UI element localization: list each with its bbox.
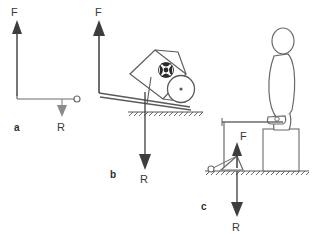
panel-c-reaction-label: R bbox=[232, 221, 240, 233]
panel-a-force-label: F bbox=[11, 6, 18, 18]
panel-c-ground-hatching bbox=[206, 171, 309, 175]
panel-c-effort-arrowhead bbox=[232, 142, 242, 156]
panel-b-ground-hatching bbox=[129, 112, 203, 116]
figure-canvas: F R a bbox=[0, 0, 312, 237]
panel-b-load-blob bbox=[159, 63, 174, 78]
panel-c-force-label: F bbox=[240, 130, 247, 142]
panel-a: F R a bbox=[11, 6, 80, 133]
panel-b-load-arrowhead bbox=[139, 154, 151, 170]
panel-c-person-torso bbox=[269, 54, 295, 118]
panel-a-fulcrum-circle bbox=[74, 96, 80, 102]
panel-c-pivot-circle bbox=[208, 166, 214, 172]
panel-a-effort-arrowhead bbox=[12, 20, 22, 34]
panel-b-wheel-axle bbox=[179, 87, 182, 90]
panel-b-reaction-label: R bbox=[140, 173, 148, 185]
panel-c-person-head bbox=[272, 28, 294, 54]
panel-c-ankle-joint bbox=[275, 117, 279, 121]
panel-c-load-arrowhead bbox=[231, 202, 243, 217]
panel-a-reaction-label: R bbox=[57, 121, 65, 133]
panel-c-load-box bbox=[263, 129, 299, 171]
panel-b-force-label: F bbox=[95, 6, 102, 18]
panel-b: F R b bbox=[93, 6, 203, 185]
panel-b-effort-arrowhead bbox=[93, 20, 105, 36]
panel-b-label: b bbox=[110, 169, 116, 180]
panel-a-load-arrowhead bbox=[57, 105, 67, 117]
panel-a-label: a bbox=[14, 122, 20, 133]
panel-c-label: c bbox=[201, 201, 207, 212]
panel-c: F R c bbox=[201, 28, 309, 233]
lever-classes-diagram: F R a bbox=[0, 0, 312, 237]
